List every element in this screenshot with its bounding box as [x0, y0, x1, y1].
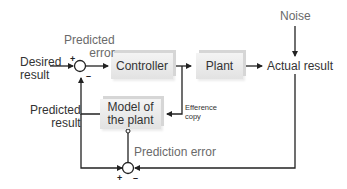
plant-block: Plant	[196, 53, 243, 79]
top-minus-sign: –	[86, 72, 91, 81]
top-plus-sign: +	[70, 55, 75, 64]
plant-label: Plant	[206, 60, 233, 73]
controller-label: Controller	[116, 60, 168, 73]
bottom-summing-junction	[123, 163, 134, 174]
predicted-result-label: Predicted result	[30, 104, 81, 130]
actual-result-label: Actual result	[267, 60, 333, 73]
model-label-line2: the plant	[107, 114, 153, 127]
noise-label: Noise	[280, 10, 311, 23]
prediction-error-label: Prediction error	[134, 146, 216, 159]
top-summing-junction	[75, 61, 86, 72]
model-of-plant-block: Model of the plant	[100, 99, 161, 129]
bottom-plus-sign: +	[117, 174, 122, 183]
bottom-minus-sign: –	[133, 174, 138, 183]
desired-result-label: Desired result	[20, 56, 61, 82]
controller-block: Controller	[111, 53, 173, 79]
connector-lines	[0, 0, 347, 189]
efference-copy-label: Efference copy	[185, 103, 217, 121]
